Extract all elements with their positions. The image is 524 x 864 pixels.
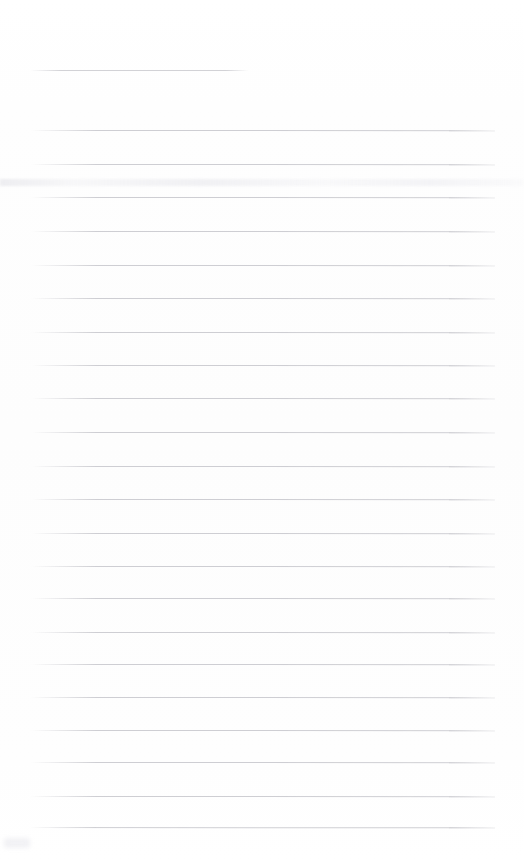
scanned-page	[0, 0, 524, 864]
page-content-text	[0, 0, 524, 864]
